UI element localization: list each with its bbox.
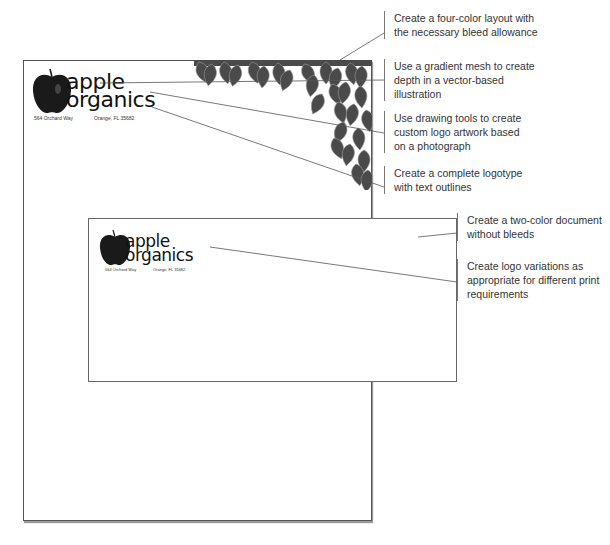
leaf-illustration (194, 60, 372, 190)
callout-drawing-tools: Use drawing tools to create custom logo … (384, 111, 534, 153)
callout-two-color: Create a two-color document without blee… (457, 213, 607, 241)
address-city: Orange, FL 35682 (153, 267, 185, 272)
address-street: 564 Orchard Way (34, 115, 73, 121)
address-city: Orange, FL 35682 (94, 115, 134, 121)
logo-word-organics: organics (125, 247, 193, 264)
callout-logotype: Create a complete logotype with text out… (384, 166, 524, 194)
logo-word-organics: organics (66, 89, 155, 111)
callout-logo-variations: Create logo variations as appropriate fo… (457, 259, 607, 301)
callout-four-color: Create a four-color layout with the nece… (384, 11, 544, 39)
envelope-sheet: apple organics 564 Orchard Way Orange, F… (88, 218, 457, 382)
callout-gradient-mesh: Use a gradient mesh to create depth in a… (384, 59, 544, 101)
address-street: 564 Orchard Way (105, 267, 136, 272)
